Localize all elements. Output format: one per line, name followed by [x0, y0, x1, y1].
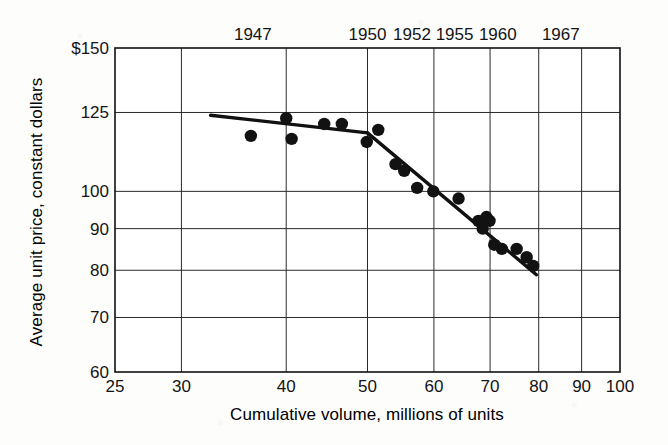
y-tick-label-70: 70: [90, 308, 109, 327]
top-axis-label-1955: 1955: [436, 25, 474, 44]
top-axis-label-1967: 1967: [542, 25, 580, 44]
data-point: [361, 136, 373, 148]
x-axis-title: Cumulative volume, millions of units: [230, 405, 504, 424]
data-point: [527, 260, 539, 272]
top-axis-label-1950: 1950: [349, 25, 387, 44]
x-tick-label-100: 100: [606, 377, 634, 396]
data-point: [318, 118, 330, 130]
x-tick-label-80: 80: [529, 377, 548, 396]
x-axis-tick-labels: 2530405060708090100: [106, 377, 635, 396]
y-tick-label-90: 90: [90, 220, 109, 239]
data-point: [427, 185, 439, 197]
data-point: [510, 243, 522, 255]
y-tick-label-80: 80: [90, 261, 109, 280]
data-point: [483, 215, 495, 227]
x-tick-label-40: 40: [277, 377, 296, 396]
y-axis-tick-labels: $15012510090807060: [71, 39, 109, 382]
data-point: [336, 118, 348, 130]
data-point: [372, 124, 384, 136]
data-point: [285, 133, 297, 145]
data-point: [280, 112, 292, 124]
top-axis-year-labels: 194719501952195519601967: [234, 25, 580, 44]
x-tick-label-90: 90: [572, 377, 591, 396]
data-point: [452, 192, 464, 204]
y-tick-label-125: 125: [81, 103, 109, 122]
top-axis-label-1947: 1947: [234, 25, 272, 44]
x-tick-label-60: 60: [424, 377, 443, 396]
y-tick-label-60: 60: [90, 363, 109, 382]
data-point: [496, 243, 508, 255]
data-point: [245, 130, 257, 142]
experience-curve-chart: 2530405060708090100 $15012510090807060 1…: [0, 0, 668, 445]
top-axis-label-1952: 1952: [393, 25, 431, 44]
y-axis-title: Average unit price, constant dollars: [27, 78, 46, 347]
chart-page: 2530405060708090100 $15012510090807060 1…: [0, 0, 668, 445]
y-tick-label-150: $150: [71, 39, 109, 58]
y-tick-label-100: 100: [81, 182, 109, 201]
x-tick-label-50: 50: [358, 377, 377, 396]
x-tick-label-70: 70: [481, 377, 500, 396]
top-axis-label-1960: 1960: [479, 25, 517, 44]
x-tick-label-30: 30: [172, 377, 191, 396]
data-point: [398, 165, 410, 177]
data-point: [411, 182, 423, 194]
